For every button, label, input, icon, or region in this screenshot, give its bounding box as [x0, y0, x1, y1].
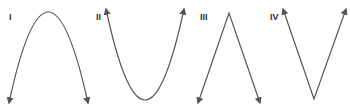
- graph-panel: I II III IV: [0, 0, 350, 111]
- graph-iv: IV: [270, 9, 346, 99]
- parabola-up-curve: [106, 9, 184, 100]
- graph-iii: III: [198, 12, 260, 103]
- graph-label-iv: IV: [270, 12, 279, 22]
- graph-ii: II: [96, 9, 184, 100]
- inverted-v-curve: [198, 13, 260, 103]
- graph-label-ii: II: [96, 12, 101, 22]
- graph-label-iii: III: [200, 12, 208, 22]
- graph-i: I: [9, 12, 88, 103]
- graph-label-i: I: [9, 12, 12, 22]
- parabola-down-curve: [9, 12, 88, 103]
- v-shape-curve: [283, 9, 346, 99]
